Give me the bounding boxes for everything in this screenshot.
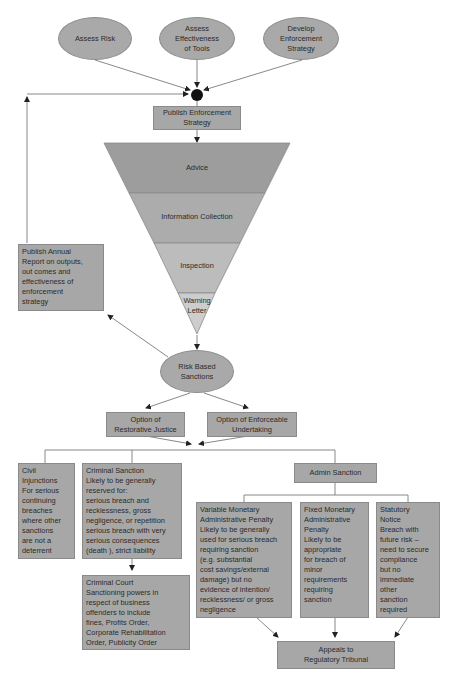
funnel-advice: Advice [150, 163, 244, 173]
enforceable-undertaking-label: Option of Enforceable Undertaking [216, 415, 288, 435]
publish-enforcement-strategy-label: Publish Enforcement Strategy [163, 108, 231, 128]
criminal-sanction-label: Criminal Sanction Likely to be generally… [86, 466, 166, 555]
fixed-monetary-penalty-label: Fixed Monetary Administrative Penalty Li… [304, 505, 355, 604]
junction-dot [191, 89, 203, 101]
enforceable-undertaking-box: Option of Enforceable Undertaking [207, 412, 297, 437]
admin-sanction-box: Admin Sanction [294, 463, 377, 483]
risk-based-sanctions-label: Risk Based Sanctions [178, 362, 215, 382]
assess-effectiveness-node: Assess Effectiveness of Tools [159, 17, 235, 60]
restorative-justice-box: Option of Restorative Justice [106, 412, 185, 437]
publish-enforcement-strategy-box: Publish Enforcement Strategy [153, 106, 241, 130]
publish-annual-report-box: Publish Annual Report on outputs, out co… [18, 244, 104, 311]
assess-risk-node: Assess Risk [58, 17, 132, 60]
funnel-warning-letter: Warning Letter [170, 296, 224, 316]
appeals-tribunal-box: Appeals to Regulatory Tribunal [277, 641, 395, 669]
assess-risk-label: Assess Risk [75, 34, 115, 44]
funnel-information-collection: Information Collection [130, 212, 264, 222]
restorative-justice-label: Option of Restorative Justice [114, 415, 176, 435]
criminal-court-box: Criminal Court Sanctioning powers in res… [82, 575, 190, 650]
civil-injunctions-box: Civil Injunctions For serious continuing… [18, 463, 75, 559]
fixed-monetary-penalty-box: Fixed Monetary Administrative Penalty Li… [300, 502, 369, 618]
statutory-notice-label: Statutory Notice Breach with future risk… [380, 505, 429, 614]
enforcement-flow-diagram: Assess Risk Assess Effectiveness of Tool… [0, 0, 454, 681]
statutory-notice-box: Statutory Notice Breach with future risk… [376, 502, 440, 618]
funnel-inspection: Inspection [150, 261, 244, 271]
develop-strategy-label: Develop Enforcement Strategy [280, 24, 322, 54]
admin-sanction-label: Admin Sanction [310, 468, 362, 478]
variable-monetary-penalty-box: Variable Monetary Administrative Penalty… [196, 502, 292, 618]
assess-effectiveness-label: Assess Effectiveness of Tools [175, 24, 219, 54]
civil-injunctions-label: Civil Injunctions For serious continuing… [22, 466, 61, 555]
criminal-sanction-box: Criminal Sanction Likely to be generally… [82, 463, 182, 559]
risk-based-sanctions-node: Risk Based Sanctions [160, 350, 234, 393]
appeals-tribunal-label: Appeals to Regulatory Tribunal [304, 645, 368, 665]
criminal-court-label: Criminal Court Sanctioning powers in res… [86, 578, 166, 647]
publish-annual-report-label: Publish Annual Report on outputs, out co… [22, 247, 83, 306]
variable-monetary-penalty-label: Variable Monetary Administrative Penalty… [200, 505, 277, 614]
develop-strategy-node: Develop Enforcement Strategy [263, 17, 339, 60]
